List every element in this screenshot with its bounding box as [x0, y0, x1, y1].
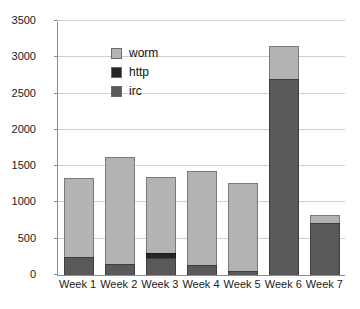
bar-segment-worm [105, 157, 135, 264]
bar-segment-worm [310, 215, 340, 223]
ytick-label: 2500 [0, 87, 36, 98]
legend-label-irc: irc [129, 85, 142, 97]
bar-segment-worm [228, 183, 258, 271]
bar-segment-irc [269, 79, 299, 275]
legend-swatch-http [111, 67, 122, 78]
bars-layer [58, 22, 345, 275]
bar-segment-irc [310, 223, 340, 275]
bar-segment-irc [228, 271, 258, 275]
legend-item-http: http [111, 64, 158, 80]
bar-chart: 3500 3000 2500 2000 1500 1000 500 0 [0, 0, 360, 309]
ytick-label: 3500 [0, 15, 36, 26]
bar-group-week-2 [105, 157, 135, 275]
xtick-label-week-6: Week 6 [263, 278, 304, 290]
gridline-3500: 3500 [58, 20, 345, 21]
bar-group-week-1 [64, 178, 94, 275]
ytick-label: 3000 [0, 51, 36, 62]
xtick-label-week-5: Week 5 [222, 278, 263, 290]
bar-group-week-6 [269, 46, 299, 275]
legend-label-http: http [129, 66, 149, 78]
legend-swatch-worm [111, 48, 122, 59]
x-axis-labels: Week 1 Week 2 Week 3 Week 4 Week 5 Week … [57, 278, 345, 300]
legend-item-irc: irc [111, 83, 158, 99]
bar-group-week-7 [310, 215, 340, 275]
ytick-label: 1500 [0, 160, 36, 171]
bar-segment-irc [187, 265, 217, 275]
xtick-label-week-1: Week 1 [57, 278, 98, 290]
xtick-label-week-3: Week 3 [139, 278, 180, 290]
bar-segment-worm [269, 46, 299, 79]
bar-segment-irc [105, 264, 135, 275]
bar-segment-irc [146, 258, 176, 275]
legend: worm http irc [111, 45, 158, 99]
xtick-label-week-4: Week 4 [180, 278, 221, 290]
bar-segment-worm [146, 177, 176, 253]
plot-area: 3500 3000 2500 2000 1500 1000 500 0 [57, 22, 345, 276]
bar-segment-worm [64, 178, 94, 256]
legend-item-worm: worm [111, 45, 158, 61]
legend-swatch-irc [111, 86, 122, 97]
bar-segment-irc [64, 257, 94, 275]
ytick-label: 500 [0, 232, 36, 243]
xtick-label-week-7: Week 7 [304, 278, 345, 290]
ytick-label: 2000 [0, 123, 36, 134]
bar-group-week-5 [228, 183, 258, 275]
xtick-label-week-2: Week 2 [98, 278, 139, 290]
bar-group-week-4 [187, 171, 217, 275]
bar-group-week-3 [146, 177, 176, 275]
ytick-label: 0 [0, 269, 36, 280]
ytick-label: 1000 [0, 196, 36, 207]
ytick-mark [54, 20, 58, 21]
legend-label-worm: worm [129, 47, 158, 59]
bar-segment-worm [187, 171, 217, 265]
